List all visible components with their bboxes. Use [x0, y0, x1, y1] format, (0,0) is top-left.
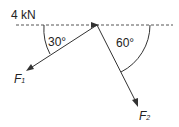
f2-label: F2: [139, 110, 150, 122]
f1-subscript: 1: [21, 77, 25, 84]
f2-arrowhead: [132, 98, 138, 107]
f1-arrowhead: [26, 64, 34, 71]
f1-label: F1: [14, 73, 25, 85]
force-label-4kn: 4 kN: [11, 9, 36, 21]
angle-label-60: 60°: [116, 37, 134, 49]
f2-subscript: 2: [146, 114, 150, 121]
angle-label-30: 30°: [48, 36, 66, 48]
